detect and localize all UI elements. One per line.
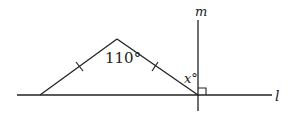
diagram-svg: 110° x° m l <box>0 0 297 119</box>
right-angle-marker <box>198 88 206 95</box>
triangle-left-side <box>40 39 117 95</box>
triangle-right-side <box>117 39 198 95</box>
line-l-label: l <box>275 88 279 104</box>
line-m-label: m <box>195 4 207 19</box>
x-angle-label: x° <box>184 71 198 86</box>
congruence-tick-left <box>76 62 83 71</box>
apex-angle-label: 110° <box>105 49 141 67</box>
geometry-diagram: 110° x° m l <box>0 0 297 119</box>
